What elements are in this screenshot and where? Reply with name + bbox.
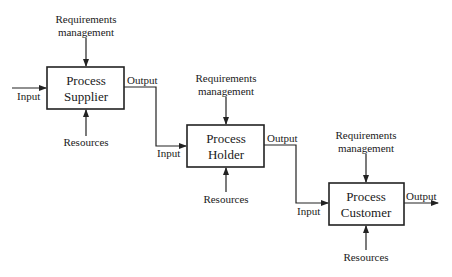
supplier-title: Process <box>66 73 106 88</box>
process-customer: Requirements management Input Process Cu… <box>297 129 438 263</box>
supplier-resources-label: Resources <box>63 136 108 148</box>
supplier-input-label: Input <box>17 90 40 102</box>
customer-title: Process <box>346 189 386 204</box>
supplier-output-label: Output <box>127 74 158 86</box>
holder-requirements-label: Requirements <box>195 72 256 84</box>
supplier-requirements-label: Requirements <box>55 13 116 25</box>
customer-title-2: Customer <box>341 205 392 220</box>
holder-title-2: Holder <box>208 147 245 162</box>
customer-output-label: Output <box>406 190 437 202</box>
holder-input-label: Input <box>157 147 180 159</box>
supplier-title-2: Supplier <box>64 89 109 104</box>
process-holder: Requirements management Input Process Ho… <box>157 72 298 205</box>
process-chain-diagram: Requirements management Input Process Su… <box>0 0 452 277</box>
holder-output-label: Output <box>267 132 298 144</box>
holder-resources-label: Resources <box>203 193 248 205</box>
connector-supplier-to-holder <box>124 87 186 146</box>
supplier-requirements-label-2: management <box>58 26 114 38</box>
process-supplier: Requirements management Input Process Su… <box>12 13 158 148</box>
customer-input-label: Input <box>297 205 320 217</box>
customer-resources-label: Resources <box>343 251 388 263</box>
holder-requirements-label-2: management <box>198 85 254 97</box>
customer-requirements-label: Requirements <box>335 129 396 141</box>
connector-holder-to-customer <box>264 145 328 203</box>
customer-requirements-label-2: management <box>338 142 394 154</box>
holder-title: Process <box>206 131 246 146</box>
